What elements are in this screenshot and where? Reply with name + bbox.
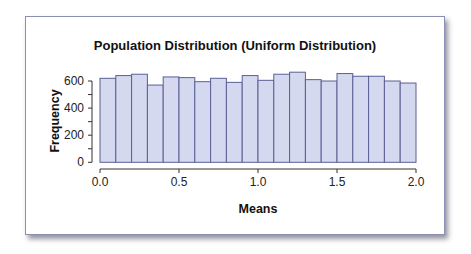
histogram-bar: [305, 80, 321, 163]
x-axis: 0.00.51.01.52.0: [92, 169, 425, 189]
histogram-bar: [179, 78, 195, 163]
histogram-bar: [321, 81, 337, 162]
histogram-plot: 0200400600 0.00.51.01.52.0: [0, 0, 471, 254]
histogram-bar: [163, 77, 179, 162]
y-tick-label: 600: [64, 74, 84, 88]
histogram-bar: [290, 72, 306, 162]
x-tick-label: 0.0: [92, 175, 109, 189]
y-tick-label: 200: [64, 128, 84, 142]
y-tick-label: 400: [64, 101, 84, 115]
histogram-bar: [369, 76, 385, 162]
x-tick-label: 0.5: [171, 175, 188, 189]
x-tick-label: 2.0: [408, 175, 425, 189]
x-tick-label: 1.0: [250, 175, 267, 189]
histogram-bar: [195, 82, 211, 163]
histogram-bar: [132, 74, 148, 162]
histogram-bar: [258, 80, 274, 162]
histogram-bar: [211, 78, 227, 162]
histogram-bar: [274, 74, 290, 162]
histogram-bar: [100, 78, 116, 162]
histogram-bar: [242, 76, 258, 163]
histogram-bar: [400, 83, 416, 162]
x-tick-label: 1.5: [329, 175, 346, 189]
histogram-bar: [226, 82, 242, 162]
y-tick-label: 0: [77, 155, 84, 169]
histogram-bars: [100, 72, 416, 162]
histogram-bar: [384, 81, 400, 162]
y-axis: 0200400600: [64, 74, 92, 169]
histogram-bar: [353, 76, 369, 162]
histogram-bar: [147, 85, 163, 162]
histogram-bar: [337, 74, 353, 163]
histogram-bar: [116, 76, 132, 163]
